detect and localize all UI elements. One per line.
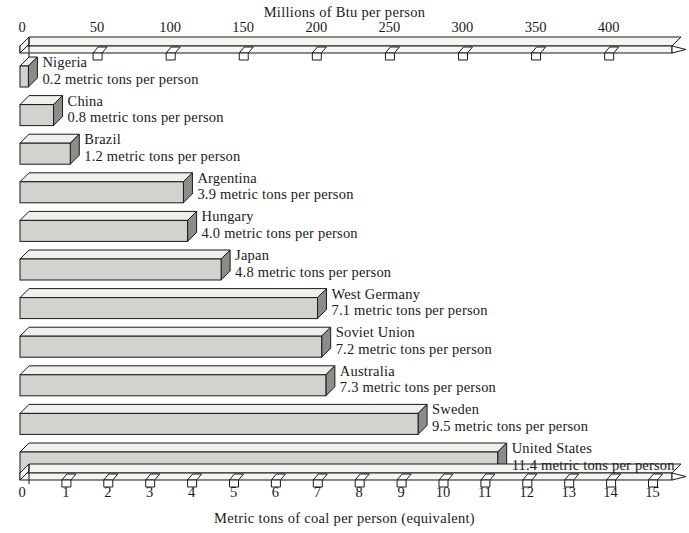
axis-top-face [20, 37, 681, 46]
bar [20, 96, 63, 126]
bar-value-label: 9.5 metric tons per person [432, 419, 588, 434]
axis-tick-label: 9 [397, 484, 404, 501]
bar [20, 366, 335, 396]
bar-front-face [20, 143, 70, 164]
bar-label-group: Japan4.8 metric tons per person [235, 248, 391, 279]
axis-tick-label: 5 [230, 484, 237, 501]
energy-consumption-bar-chart: Millions of Btu per person 0501001502002… [0, 0, 689, 533]
bar-country-label: Australia [340, 364, 496, 379]
bar-top-face [20, 173, 192, 182]
bar-value-label: 0.2 metric tons per person [42, 72, 198, 87]
axis-tick-label: 1 [62, 484, 69, 501]
bar-front-face [20, 336, 322, 357]
axis-tick-label: 6 [272, 484, 279, 501]
bar-label-group: China0.8 metric tons per person [68, 94, 224, 125]
bar-country-label: United States [512, 441, 675, 456]
bar [20, 57, 37, 87]
bar-value-label: 7.2 metric tons per person [336, 342, 492, 357]
bar-label-group: United States11.4 metric tons per person [512, 441, 675, 472]
bar-value-label: 7.1 metric tons per person [331, 303, 487, 318]
bar-top-face [20, 211, 197, 220]
axis-tick-label: 11 [478, 484, 492, 501]
axis-front-band [20, 46, 672, 53]
axis-tick-label: 13 [561, 484, 576, 501]
bar-top-face [20, 250, 230, 259]
bar-top-face [20, 366, 335, 375]
bar [20, 173, 192, 203]
bar [20, 211, 197, 241]
bar-front-face [20, 182, 183, 203]
bar-top-face [20, 327, 331, 336]
bar-value-label: 0.8 metric tons per person [68, 110, 224, 125]
bar-label-group: Australia7.3 metric tons per person [340, 364, 496, 395]
bar-label-group: Brazil1.2 metric tons per person [84, 132, 240, 163]
bar-country-label: West Germany [331, 287, 487, 302]
bar-value-label: 4.8 metric tons per person [235, 265, 391, 280]
bar-country-label: China [68, 94, 224, 109]
axis-tick-label: 15 [645, 484, 660, 501]
bar-value-label: 11.4 metric tons per person [512, 458, 675, 473]
bar [20, 250, 230, 280]
axis-arrowhead [672, 46, 686, 53]
axis-tick-label: 2 [104, 484, 111, 501]
axis-tick-label: 10 [436, 484, 451, 501]
bar [20, 289, 326, 319]
bar-front-face [20, 413, 418, 434]
bar-front-face [20, 105, 54, 126]
bar-top-face [20, 134, 79, 143]
axis-tick-label: 7 [314, 484, 321, 501]
bar-country-label: Hungary [202, 209, 358, 224]
axis-tick-label: 12 [520, 484, 535, 501]
bar-value-label: 7.3 metric tons per person [340, 380, 496, 395]
axis-tick-label: 14 [603, 484, 618, 501]
bar-front-face [20, 298, 317, 319]
bar-country-label: Soviet Union [336, 325, 492, 340]
bar-front-face [20, 375, 326, 396]
bar-top-face [20, 443, 507, 452]
bar [20, 327, 331, 357]
bar-value-label: 4.0 metric tons per person [202, 226, 358, 241]
bar-label-group: Soviet Union7.2 metric tons per person [336, 325, 492, 356]
bar-country-label: Japan [235, 248, 391, 263]
bar-label-group: Nigeria0.2 metric tons per person [42, 55, 198, 86]
bottom-axis-title: Metric tons of coal per person (equivale… [0, 510, 689, 527]
bar-label-group: West Germany7.1 metric tons per person [331, 287, 487, 318]
bar-country-label: Brazil [84, 132, 240, 147]
bar-label-group: Argentina3.9 metric tons per person [197, 171, 353, 202]
axis-tick-label: 4 [188, 484, 195, 501]
bar-value-label: 1.2 metric tons per person [84, 149, 240, 164]
bar-front-face [20, 259, 221, 280]
bar-country-label: Nigeria [42, 55, 198, 70]
bar-country-label: Argentina [197, 171, 353, 186]
axis-tick-label: 8 [356, 484, 363, 501]
bar [20, 404, 427, 434]
bar-front-face [20, 220, 188, 241]
axis-tick-label: 0 [18, 484, 25, 501]
axis-tick-label: 3 [146, 484, 153, 501]
bar-country-label: Sweden [432, 402, 588, 417]
bar-label-group: Hungary4.0 metric tons per person [202, 209, 358, 240]
bar-label-group: Sweden9.5 metric tons per person [432, 402, 588, 433]
bar-front-face [20, 66, 28, 87]
bar [20, 134, 79, 164]
bar-top-face [20, 404, 427, 413]
bar-top-face [20, 289, 326, 298]
axis-arrowhead [672, 473, 686, 480]
bar-value-label: 3.9 metric tons per person [197, 187, 353, 202]
